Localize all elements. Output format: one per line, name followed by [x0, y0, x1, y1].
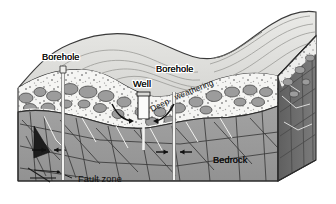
well-head: [137, 92, 150, 96]
label-bedrock-text: Bedrock: [213, 155, 248, 165]
label-fault-zone: Fault zone: [78, 174, 122, 184]
label-borehole-right-text: Borehole: [156, 64, 194, 74]
label-well-text: Well: [133, 79, 151, 89]
geologic-block-diagram-figure: Borehole Borehole Borehole Borehole Well…: [0, 0, 336, 204]
block-diagram-svg: Borehole Borehole Borehole Borehole Well…: [0, 0, 336, 204]
label-borehole-left-text: Borehole: [42, 52, 80, 62]
well-casing: [138, 95, 149, 119]
borehole-left-collar: [60, 66, 66, 73]
fault-zone-leader-dot: [57, 171, 60, 174]
